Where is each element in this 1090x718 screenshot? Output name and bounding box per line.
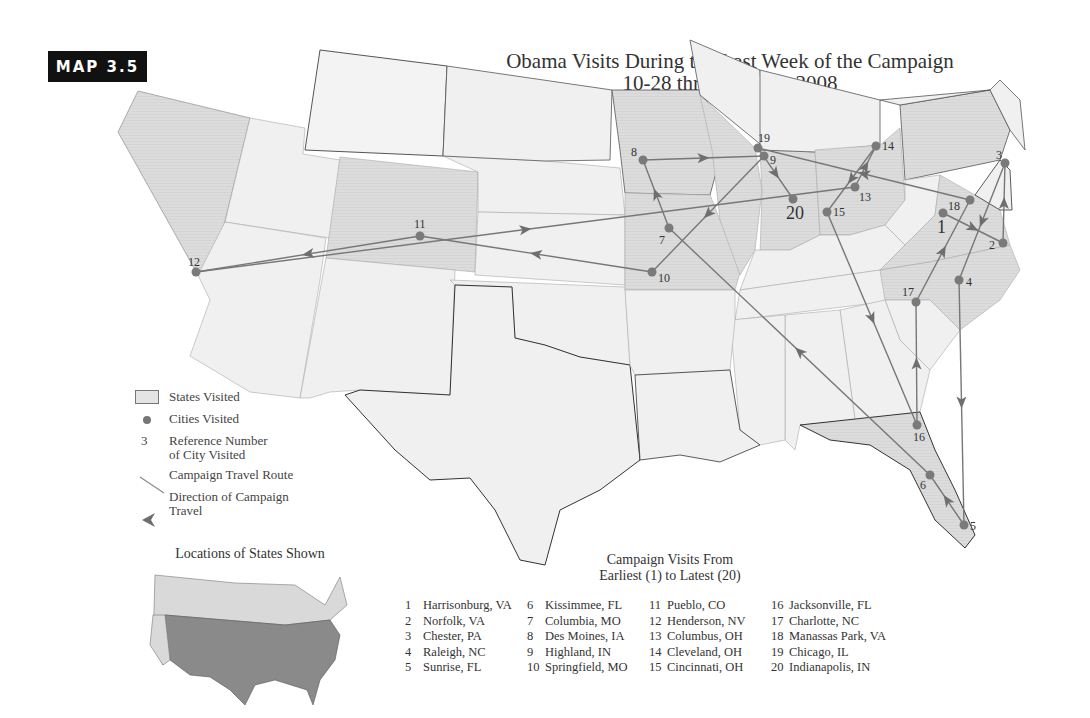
- city-visit-item: 10Springfield, MO: [527, 660, 649, 676]
- city-visit-number: 3: [405, 629, 419, 645]
- city-number-label: 12: [188, 255, 200, 269]
- legend-reference-number: 3 Reference Number of City Visited: [135, 434, 335, 462]
- city-number-label: 5: [970, 519, 976, 533]
- map-legend: States Visited Cities Visited 3 Referenc…: [135, 390, 335, 524]
- city-number-label: 14: [882, 139, 894, 153]
- city-number-label: 20: [786, 203, 804, 223]
- city-visit-item: 7Columbia, MO: [527, 614, 649, 630]
- city-marker: [760, 152, 769, 161]
- city-visit-item: 8Des Moines, IA: [527, 629, 649, 645]
- city-visit-name: Columbus, OH: [667, 629, 743, 643]
- city-visit-name: Cincinnati, OH: [667, 660, 743, 674]
- city-visit-number: 14: [649, 645, 663, 661]
- city-visit-name: Raleigh, NC: [423, 645, 486, 659]
- city-visit-number: 15: [649, 660, 663, 676]
- state-mi: [760, 70, 880, 152]
- city-visit-number: 4: [405, 645, 419, 661]
- city-number-label: 17: [902, 285, 914, 299]
- city-number-label: 8: [631, 145, 637, 159]
- city-visit-item: 11Pueblo, CO: [649, 598, 771, 614]
- city-number-label: 16: [913, 430, 925, 444]
- city-visit-name: Kissimmee, FL: [545, 598, 622, 612]
- inset-title: Locations of States Shown: [140, 546, 360, 562]
- city-visit-item: 17Charlotte, NC: [771, 614, 921, 630]
- city-number-label: 6: [920, 478, 926, 492]
- city-number-label: 3: [996, 148, 1002, 162]
- city-visit-item: 2Norfolk, VA: [405, 614, 527, 630]
- city-number-label: 11: [414, 217, 426, 231]
- city-visit-item: 18Manassas Park, VA: [771, 629, 921, 645]
- city-visit-item: 19Chicago, IL: [771, 645, 921, 661]
- visits-header: Campaign Visits From Earliest (1) to Lat…: [520, 552, 820, 584]
- inset-highlight: [163, 615, 340, 705]
- city-visit-name: Highland, IN: [545, 645, 611, 659]
- city-visit-number: 18: [771, 629, 785, 645]
- city-number-label: 7: [659, 233, 665, 247]
- city-visit-name: Henderson, NV: [667, 614, 745, 628]
- city-visit-item: 13Columbus, OH: [649, 629, 771, 645]
- city-visit-item: 1Harrisonburg, VA: [405, 598, 527, 614]
- city-marker: [872, 142, 881, 151]
- city-visit-name: Chester, PA: [423, 629, 482, 643]
- city-marker: [639, 156, 648, 165]
- legend-ref-number-symbol: 3: [141, 434, 148, 448]
- city-visit-name: Cleveland, OH: [667, 645, 742, 659]
- city-number-label: 1: [937, 217, 946, 237]
- city-number-label: 4: [966, 275, 972, 289]
- city-visit-name: Indianapolis, IN: [789, 660, 870, 674]
- legend-states-visited: States Visited: [135, 390, 335, 406]
- city-visit-number: 19: [771, 645, 785, 661]
- city-number-label: 19: [758, 131, 770, 145]
- inset-us-map: [150, 575, 347, 705]
- city-visit-name: Chicago, IL: [789, 645, 849, 659]
- city-marker: [999, 239, 1008, 248]
- city-marker: [416, 232, 425, 241]
- city-visit-number: 9: [527, 645, 541, 661]
- city-visit-number: 1: [405, 598, 419, 614]
- city-visit-item: 12Henderson, NV: [649, 614, 771, 630]
- city-visit-item: 6Kissimmee, FL: [527, 598, 649, 614]
- city-number-label: 13: [859, 190, 871, 204]
- city-visit-item: 5Sunrise, FL: [405, 660, 527, 676]
- city-visit-name: Pueblo, CO: [667, 598, 725, 612]
- city-visit-number: 10: [527, 660, 541, 676]
- city-visit-number: 17: [771, 614, 785, 630]
- city-visit-name: Sunrise, FL: [423, 660, 481, 674]
- city-marker: [960, 521, 969, 530]
- city-number-label: 2: [989, 238, 995, 252]
- city-visit-list: 1Harrisonburg, VA6Kissimmee, FL11Pueblo,…: [405, 598, 965, 676]
- legend-cities-visited: Cities Visited: [135, 412, 335, 428]
- city-visit-name: Harrisonburg, VA: [423, 598, 512, 612]
- city-marker: [955, 276, 964, 285]
- legend-states-visited-label: States Visited: [169, 390, 240, 404]
- city-marker: [823, 208, 832, 217]
- city-visit-name: Jacksonville, FL: [789, 598, 872, 612]
- city-visit-item: 4Raleigh, NC: [405, 645, 527, 661]
- city-marker: [966, 196, 975, 205]
- city-marker: [913, 421, 922, 430]
- state-pa: [900, 90, 1010, 180]
- state-nm: [300, 258, 455, 398]
- city-visit-number: 16: [771, 598, 785, 614]
- legend-direction: Direction of Campaign Travel: [135, 490, 335, 518]
- city-dot-icon: [143, 416, 151, 424]
- city-number-label: 10: [658, 271, 670, 285]
- legend-route: Campaign Travel Route: [135, 468, 335, 484]
- city-marker: [648, 268, 657, 277]
- city-visit-number: 5: [405, 660, 419, 676]
- city-visit-item: 14Cleveland, OH: [649, 645, 771, 661]
- state-fl: [800, 412, 975, 548]
- city-visit-name: Charlotte, NC: [789, 614, 859, 628]
- state-co: [326, 157, 478, 272]
- city-visit-item: 16Jacksonville, FL: [771, 598, 921, 614]
- state-sd: [443, 66, 612, 161]
- city-visit-item: 9Highland, IN: [527, 645, 649, 661]
- city-number-label: 9: [770, 153, 776, 167]
- state-ar: [625, 290, 735, 375]
- city-visit-name: Columbia, MO: [545, 614, 621, 628]
- city-visit-name: Des Moines, IA: [545, 629, 625, 643]
- city-visit-item: 15Cincinnati, OH: [649, 660, 771, 676]
- city-visit-number: 7: [527, 614, 541, 630]
- city-visit-item: 20Indianapolis, IN: [771, 660, 921, 676]
- city-marker: [665, 224, 674, 233]
